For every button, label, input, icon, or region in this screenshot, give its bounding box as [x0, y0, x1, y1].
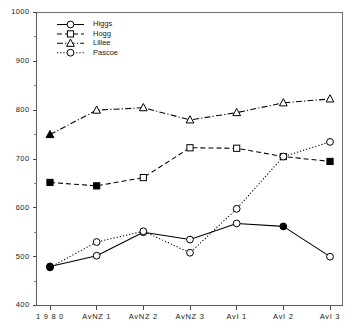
legend-label: Lillee: [93, 38, 111, 47]
data-point-marker: [47, 179, 53, 185]
y-axis-tick-label: 900: [16, 56, 30, 65]
data-point-marker: [67, 31, 73, 37]
legend-label: Higgs: [93, 19, 112, 28]
x-axis-tick-label: 1 9 8 0: [36, 312, 64, 321]
data-point-marker: [139, 104, 147, 111]
legend-label: Pascoe: [93, 48, 118, 57]
data-point-marker: [280, 153, 287, 160]
data-point-marker: [94, 183, 100, 189]
data-point-marker: [327, 139, 334, 146]
data-point-marker: [233, 205, 240, 212]
x-axis-tick-label: AvI 3: [320, 312, 340, 321]
data-point-marker: [187, 249, 194, 256]
legend-label: Hogg: [93, 29, 111, 38]
series-line: [50, 148, 330, 186]
data-point-marker: [47, 264, 54, 271]
data-point-marker: [327, 253, 334, 260]
data-point-marker: [140, 174, 146, 180]
x-axis-tick-label: AvNZ 1: [82, 312, 111, 321]
data-point-marker: [234, 145, 240, 151]
chart-legend: HiggsHoggLilleePascoe: [57, 19, 118, 56]
data-point-marker: [233, 220, 240, 227]
legend-item: Hogg: [57, 29, 111, 38]
data-series-group: [46, 95, 334, 271]
data-series: [47, 145, 333, 189]
x-axis-tick-label: AvNZ 3: [175, 312, 204, 321]
legend-item: Higgs: [57, 19, 112, 28]
y-axis-tick-label: 800: [16, 105, 30, 114]
data-series: [47, 220, 334, 270]
plot-frame: [37, 13, 343, 306]
y-axis-tick-label: 500: [16, 252, 30, 261]
data-series: [46, 95, 334, 138]
y-axis: 4005006007008009001000: [11, 7, 36, 309]
y-axis-tick-label: 400: [16, 300, 30, 309]
data-point-marker: [46, 130, 54, 137]
data-point-marker: [140, 228, 147, 235]
data-series: [47, 139, 334, 271]
legend-item: Pascoe: [57, 48, 118, 57]
data-point-marker: [326, 95, 334, 102]
data-point-marker: [67, 39, 75, 46]
data-point-marker: [67, 49, 74, 56]
data-point-marker: [187, 236, 194, 243]
data-point-marker: [187, 145, 193, 151]
data-point-marker: [280, 223, 287, 230]
series-line: [50, 223, 330, 266]
x-axis-tick-label: AvI 2: [273, 312, 293, 321]
series-line: [50, 142, 330, 268]
x-axis-tick-label: AvI 1: [226, 312, 246, 321]
chart-container: 4005006007008009001000 1 9 8 0AvNZ 1AvNZ…: [0, 0, 360, 335]
y-axis-tick-label: 600: [16, 203, 30, 212]
line-chart: 4005006007008009001000 1 9 8 0AvNZ 1AvNZ…: [0, 0, 360, 335]
legend-item: Lillee: [57, 38, 111, 47]
x-axis: 1 9 8 0AvNZ 1AvNZ 2AvNZ 3AvI 1AvI 2AvI 3: [36, 306, 342, 322]
x-axis-tick-label: AvNZ 2: [129, 312, 158, 321]
data-point-marker: [67, 21, 74, 28]
y-axis-tick-label: 1000: [11, 7, 29, 16]
data-point-marker: [327, 158, 333, 164]
data-point-marker: [93, 252, 100, 259]
data-point-marker: [93, 239, 100, 246]
y-axis-tick-label: 700: [16, 154, 30, 163]
